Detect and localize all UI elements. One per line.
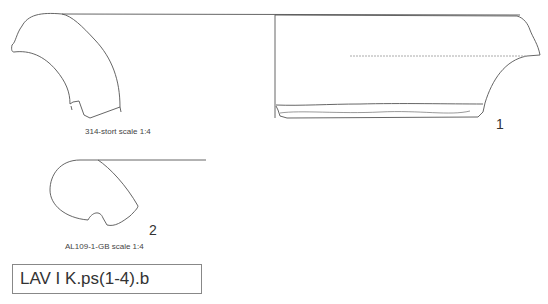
drawing-sheet: 314-stort scale 1:4 1 AL109-1-GB scale 1… [0, 0, 548, 304]
sherd-314-profile [12, 13, 120, 118]
plate-label: LAV I K.ps(1-4).b [12, 264, 202, 294]
vessel-1-profile [275, 15, 540, 118]
figure-number-2: 2 [149, 222, 157, 238]
caption-al109: AL109-1-GB scale 1:4 [65, 242, 144, 251]
pottery-drawings [0, 0, 548, 304]
sherd-al109-profile [50, 160, 138, 225]
caption-314: 314-stort scale 1:4 [85, 127, 151, 136]
figure-number-1: 1 [496, 116, 504, 132]
